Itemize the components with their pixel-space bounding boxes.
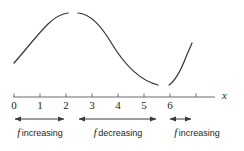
interval-label-text-1: increasing (22, 128, 63, 138)
interval-label-text-3: increasing (179, 128, 220, 138)
axis-tick-label-4: 4 (115, 100, 121, 111)
interval-label-increasing-2: fincreasing (174, 128, 219, 139)
curve-decreasing-branch (78, 13, 158, 85)
function-curve (14, 13, 192, 85)
axis-tick-label-3: 3 (89, 100, 95, 111)
interval-label-decreasing: fdecreasing (94, 128, 142, 139)
axis-variable-label: x (222, 90, 227, 101)
axis-tick-label-2: 2 (63, 100, 69, 111)
axis-tick-label-5: 5 (141, 100, 147, 111)
interval-label-increasing-1: fincreasing (17, 128, 62, 139)
axis-tick-label-1: 1 (37, 100, 43, 111)
number-line-axis (13, 94, 215, 98)
increasing-decreasing-figure: 0 1 2 3 4 5 6 x fincreasing fdecreasing … (0, 0, 244, 151)
curve-increasing-branch (14, 13, 68, 63)
interval-label-text-2: decreasing (98, 128, 142, 138)
curve-final-increasing-branch (169, 43, 192, 85)
axis-tick-label-0: 0 (11, 100, 17, 111)
axis-tick-label-6: 6 (167, 100, 173, 111)
